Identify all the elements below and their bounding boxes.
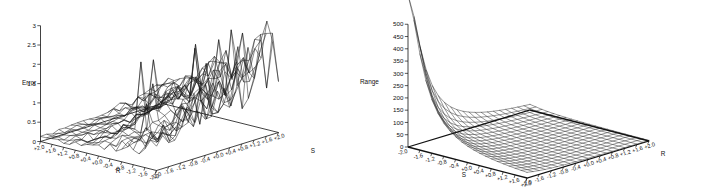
r-tick-label: +0.4 bbox=[79, 155, 91, 163]
r-tick-label: +2.0 bbox=[33, 144, 45, 152]
z-tick-label: 450 bbox=[393, 33, 404, 40]
r-tick-label: +0.8 bbox=[68, 152, 80, 160]
r-tick-label: +1.6 bbox=[44, 147, 56, 155]
z-tick-label: 1 bbox=[32, 99, 36, 106]
surface-plot-range: 500450400350300250200150100500Range-2.0-… bbox=[358, 0, 716, 194]
r-axis-title: R bbox=[661, 150, 666, 157]
z-tick-label: 2.5 bbox=[27, 41, 36, 48]
s-axis-title: S bbox=[462, 171, 466, 178]
s-tick-label: +0.4 bbox=[472, 167, 484, 175]
s-tick-label: +1.2 bbox=[496, 174, 508, 182]
s-tick-label: +0.8 bbox=[484, 171, 496, 179]
s-tick-label: -2.0 bbox=[151, 171, 162, 180]
z-tick-label: 150 bbox=[393, 106, 404, 113]
r-tick-label: -1.6 bbox=[137, 170, 148, 178]
r-tick-label: +0.0 bbox=[91, 158, 103, 166]
s-tick-label-origin: -2.0 bbox=[397, 148, 408, 156]
range-surface-mesh bbox=[408, 0, 649, 172]
s-tick-label: -1.6 bbox=[413, 152, 424, 160]
surface-plot-error: 32.521.510.50Error+2.0+1.6+1.2+0.8+0.4+0… bbox=[0, 0, 358, 194]
s-axis-title: S bbox=[311, 147, 315, 154]
z-tick-label: 0.5 bbox=[27, 118, 36, 125]
z-tick-label: 0 bbox=[32, 138, 36, 145]
error-surface-mesh bbox=[41, 21, 279, 154]
z-tick-label: 250 bbox=[393, 82, 404, 89]
r-axis-title: R bbox=[116, 167, 121, 174]
r-tick-label: +1.2 bbox=[56, 149, 68, 157]
s-tick-label: -1.2 bbox=[425, 155, 436, 163]
r-tick-label: -0.4 bbox=[102, 161, 113, 169]
z-tick-label: 50 bbox=[397, 131, 404, 138]
z-axis-title: Range bbox=[360, 78, 379, 86]
z-tick-label: 2 bbox=[32, 61, 36, 68]
z-tick-label: 3 bbox=[32, 22, 36, 29]
s-tick-label: +1.6 bbox=[508, 177, 520, 185]
z-tick-label: 400 bbox=[393, 45, 404, 52]
s-tick-label: -0.8 bbox=[437, 158, 448, 166]
s-tick-label: -0.4 bbox=[448, 162, 459, 170]
figure-container: 32.521.510.50Error+2.0+1.6+1.2+0.8+0.4+0… bbox=[0, 0, 716, 194]
z-tick-label: 300 bbox=[393, 70, 404, 77]
z-axis-title: Error bbox=[22, 79, 37, 86]
z-tick-label: 100 bbox=[393, 119, 404, 126]
r-tick-label: -1.2 bbox=[126, 167, 137, 175]
z-tick-label: 350 bbox=[393, 57, 404, 64]
z-tick-label: 200 bbox=[393, 94, 404, 101]
z-tick-label: 500 bbox=[393, 20, 404, 27]
